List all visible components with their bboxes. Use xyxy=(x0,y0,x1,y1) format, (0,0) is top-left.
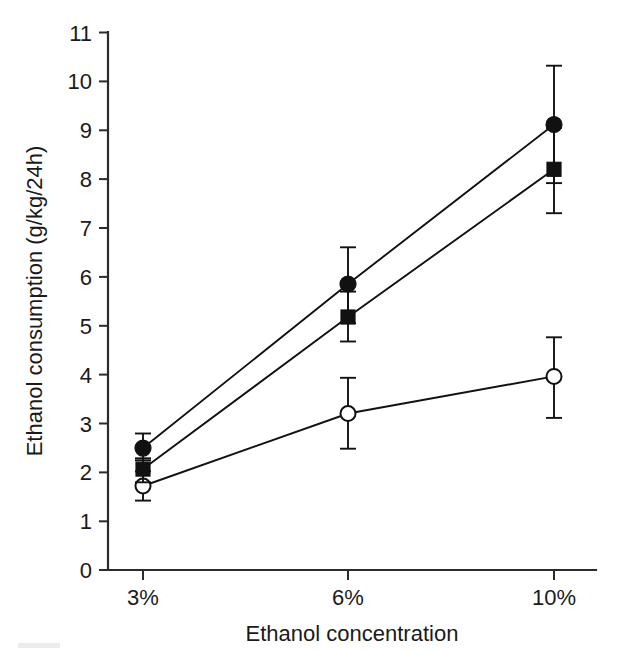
data-point-filled-circle-10pct xyxy=(546,117,562,133)
figure-page: 11 10 9 8 7 6 5 4 3 2 1 0 3% 6% 10% Etha… xyxy=(0,0,618,652)
y-axis-title: Ethanol consumption (g/kg/24h) xyxy=(22,146,47,457)
y-tick-label-11: 11 xyxy=(69,21,92,46)
data-point-open-circle-10pct xyxy=(547,369,562,384)
y-tick-label-4: 4 xyxy=(80,363,92,388)
y-axis-tick-labels: 11 10 9 8 7 6 5 4 3 2 1 0 xyxy=(68,21,92,584)
y-tick-label-3: 3 xyxy=(80,412,92,437)
y-tick-label-10: 10 xyxy=(68,69,92,94)
data-point-open-circle-6pct xyxy=(341,406,356,421)
x-tick-label-3pct: 3% xyxy=(127,585,159,610)
y-tick-label-2: 2 xyxy=(80,460,92,485)
y-axis-ticks xyxy=(99,33,108,571)
y-tick-label-8: 8 xyxy=(80,167,92,192)
data-point-filled-square-3pct xyxy=(136,462,150,476)
x-axis-tick-labels: 3% 6% 10% xyxy=(127,585,576,610)
series-open-circle xyxy=(135,337,562,500)
scan-artifact xyxy=(18,643,60,648)
y-tick-label-5: 5 xyxy=(80,314,92,339)
data-point-filled-circle-6pct xyxy=(340,276,356,292)
y-tick-label-9: 9 xyxy=(80,118,92,143)
x-tick-label-10pct: 10% xyxy=(532,585,576,610)
x-tick-label-6pct: 6% xyxy=(332,585,364,610)
x-axis-ticks xyxy=(143,570,554,580)
y-tick-label-7: 7 xyxy=(80,216,92,241)
axes-group xyxy=(108,32,596,570)
y-tick-label-1: 1 xyxy=(80,509,92,534)
data-point-filled-circle-3pct xyxy=(135,440,151,456)
x-axis-title: Ethanol concentration xyxy=(246,621,459,646)
line-chart: 11 10 9 8 7 6 5 4 3 2 1 0 3% 6% 10% Etha… xyxy=(0,0,618,652)
y-tick-label-0: 0 xyxy=(80,558,92,583)
y-tick-label-6: 6 xyxy=(80,265,92,290)
